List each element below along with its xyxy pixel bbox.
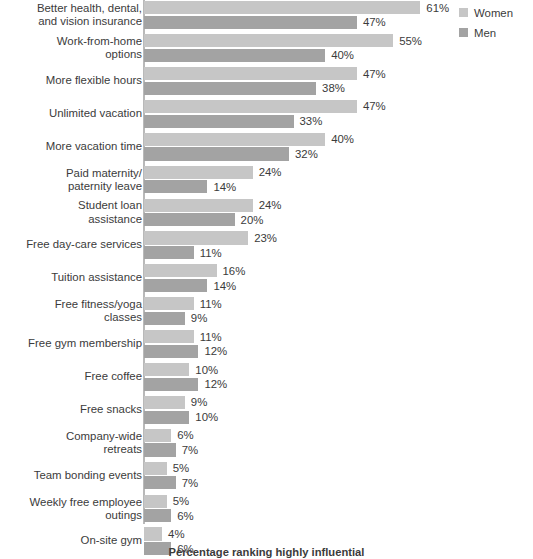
bar-value-label: 6% [177, 429, 193, 441]
bar-women[interactable] [144, 67, 357, 80]
bar-group: 5%6% [144, 493, 533, 523]
bar-women[interactable] [144, 1, 420, 14]
category-label: Team bonding events [0, 469, 142, 482]
bar-value-label: 10% [195, 364, 218, 376]
bar-track: 6% [144, 429, 533, 442]
category-label: Work-from-home options [0, 35, 142, 61]
bar-women[interactable] [144, 34, 393, 47]
bar-men[interactable] [144, 16, 357, 29]
bar-value-label: 5% [173, 495, 189, 507]
category-label: Student loan assistance [0, 199, 142, 225]
bar-women[interactable] [144, 100, 357, 113]
bar-women[interactable] [144, 330, 194, 343]
category-label: Better health, dental, and vision insura… [0, 2, 142, 28]
chart-row: Unlimited vacation47%33% [0, 99, 533, 129]
bar-track: 24% [144, 199, 533, 212]
bar-track: 47% [144, 67, 533, 80]
bar-men[interactable] [144, 115, 294, 128]
bar-women[interactable] [144, 527, 162, 540]
bar-men[interactable] [144, 476, 176, 489]
category-label: Free coffee [0, 370, 142, 383]
bar-men[interactable] [144, 443, 176, 456]
bar-women[interactable] [144, 231, 248, 244]
bar-women[interactable] [144, 363, 189, 376]
bar-track: 33% [144, 115, 533, 128]
bar-women[interactable] [144, 264, 217, 277]
bar-value-label: 6% [177, 510, 193, 522]
bar-women[interactable] [144, 495, 167, 508]
bar-track: 7% [144, 443, 533, 456]
bar-value-label: 16% [223, 265, 246, 277]
bar-track: 38% [144, 82, 533, 95]
bar-track: 40% [144, 133, 533, 146]
bar-group: 47%33% [144, 99, 533, 129]
bar-value-label: 10% [195, 411, 218, 423]
bar-men[interactable] [144, 279, 207, 292]
bar-women[interactable] [144, 462, 167, 475]
plot-area: Better health, dental, and vision insura… [0, 0, 533, 540]
bar-value-label: 32% [295, 148, 318, 160]
bar-men[interactable] [144, 246, 194, 259]
bar-value-label: 40% [331, 133, 354, 145]
bar-value-label: 9% [191, 396, 207, 408]
bar-track: 12% [144, 345, 533, 358]
chart-row: Free coffee10%12% [0, 362, 533, 392]
bar-value-label: 4% [168, 528, 184, 540]
chart-row: Paid maternity/ paternity leave24%14% [0, 164, 533, 194]
bar-value-label: 40% [331, 49, 354, 61]
bar-group: 47%38% [144, 66, 533, 96]
bar-men[interactable] [144, 49, 325, 62]
bar-women[interactable] [144, 166, 253, 179]
bar-group: 6%7% [144, 428, 533, 458]
bar-group: 9%10% [144, 395, 533, 425]
bar-value-label: 24% [259, 199, 282, 211]
bar-value-label: 12% [204, 378, 227, 390]
bar-track: 9% [144, 312, 533, 325]
bar-women[interactable] [144, 429, 171, 442]
chart-legend: Women Men [459, 6, 533, 46]
bar-rows-container: Better health, dental, and vision insura… [0, 0, 533, 559]
category-label: Paid maternity/ paternity leave [0, 166, 142, 192]
category-label: Company-wide retreats [0, 430, 142, 456]
bar-men[interactable] [144, 147, 289, 160]
bar-men[interactable] [144, 509, 171, 522]
chart-row: Weekly free employee outings5%6% [0, 493, 533, 523]
bar-track: 12% [144, 378, 533, 391]
bar-men[interactable] [144, 82, 316, 95]
bar-value-label: 7% [182, 444, 198, 456]
legend-swatch-women-icon [459, 8, 468, 17]
bar-group: 23%11% [144, 230, 533, 260]
bar-group: 40%32% [144, 132, 533, 162]
bar-value-label: 11% [200, 331, 222, 343]
category-label: Unlimited vacation [0, 107, 142, 120]
bar-women[interactable] [144, 199, 253, 212]
bar-value-label: 47% [363, 100, 386, 112]
bar-women[interactable] [144, 133, 325, 146]
bar-track: 9% [144, 396, 533, 409]
bar-value-label: 55% [399, 35, 422, 47]
category-label: Free fitness/yoga classes [0, 298, 142, 324]
chart-row: Team bonding events5%7% [0, 460, 533, 490]
bar-men[interactable] [144, 312, 185, 325]
bar-track: 11% [144, 297, 533, 310]
chart-row: Work-from-home options55%40% [0, 33, 533, 63]
bar-value-label: 9% [191, 312, 207, 324]
category-label: Free snacks [0, 403, 142, 416]
bar-group: 5%7% [144, 460, 533, 490]
bar-women[interactable] [144, 297, 194, 310]
bar-value-label: 11% [200, 298, 222, 310]
bar-value-label: 7% [182, 477, 198, 489]
legend-item-women[interactable]: Women [459, 6, 533, 19]
bar-women[interactable] [144, 396, 185, 409]
bar-men[interactable] [144, 411, 189, 424]
bar-value-label: 47% [363, 16, 386, 28]
bar-value-label: 12% [204, 345, 227, 357]
legend-item-men[interactable]: Men [459, 26, 533, 39]
bar-track: 10% [144, 411, 533, 424]
bar-men[interactable] [144, 180, 207, 193]
bar-group: 16%14% [144, 263, 533, 293]
bar-men[interactable] [144, 378, 198, 391]
bar-men[interactable] [144, 345, 198, 358]
bar-men[interactable] [144, 213, 235, 226]
legend-label-women: Women [474, 7, 513, 19]
